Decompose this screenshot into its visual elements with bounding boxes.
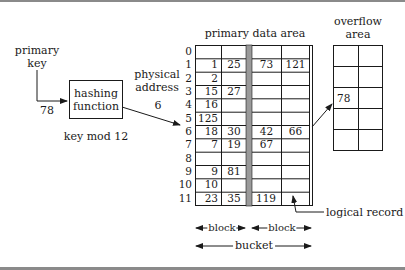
primary-key-label-line1: primary: [15, 44, 59, 57]
data-cell: 121: [282, 58, 309, 71]
data-cell: 19: [222, 138, 246, 151]
hashing-label-line1: hashing: [74, 87, 118, 100]
row-label: 6: [174, 125, 192, 138]
data-cell: 25: [222, 58, 246, 71]
physical-address-label-line1: physical: [134, 68, 180, 81]
data-cell: 66: [282, 125, 309, 138]
row-label: 2: [174, 72, 192, 85]
data-cell: 9: [196, 165, 218, 178]
row-label: 10: [174, 178, 192, 191]
primary-data-area-title: primary data area: [205, 27, 306, 40]
overflow-area-title-line2: area: [346, 28, 371, 41]
data-cell: 18: [196, 125, 218, 138]
data-cell: 42: [252, 125, 281, 138]
row-label: 0: [174, 45, 192, 58]
overflow-area-title-line1: overflow: [334, 15, 382, 28]
data-cell: 67: [252, 138, 281, 151]
logical-record-label: logical record: [326, 206, 403, 219]
data-cell: 35: [222, 192, 246, 205]
row-label: 11: [174, 192, 192, 205]
data-cell: 10: [196, 178, 218, 191]
row-label: 3: [174, 85, 192, 98]
data-cell: 125: [196, 112, 218, 125]
row-label: 9: [174, 165, 192, 178]
hashing-function-box: hashing function: [69, 80, 123, 119]
data-cell: 81: [222, 165, 246, 178]
row-label: 5: [174, 112, 192, 125]
physical-address-label-line2: address: [135, 81, 179, 94]
data-cell: 1: [196, 58, 218, 71]
row-label: 7: [174, 138, 192, 151]
block-label-1: block: [207, 221, 236, 234]
row-label: 8: [174, 152, 192, 165]
overflow-cell: 78: [337, 92, 357, 105]
data-cell: 73: [252, 58, 281, 71]
bucket-label: bucket: [233, 239, 275, 252]
row-label: 4: [174, 98, 192, 111]
row-label: 1: [174, 58, 192, 71]
physical-address-value: 6: [155, 99, 162, 112]
data-cell: 7: [196, 138, 218, 151]
primary-key-value: 78: [40, 104, 54, 117]
data-cell: 16: [196, 98, 218, 111]
data-cell: 2: [196, 72, 218, 85]
hash-formula: key mod 12: [64, 130, 128, 143]
primary-key-label-line2: key: [27, 57, 46, 70]
hashing-label-line2: function: [73, 100, 119, 113]
block-label-2: block: [267, 221, 296, 234]
data-cell: 23: [196, 192, 218, 205]
data-cell: 15: [196, 85, 218, 98]
data-cell: 119: [256, 192, 281, 205]
data-cell: 27: [222, 85, 246, 98]
data-cell: 30: [222, 125, 246, 138]
